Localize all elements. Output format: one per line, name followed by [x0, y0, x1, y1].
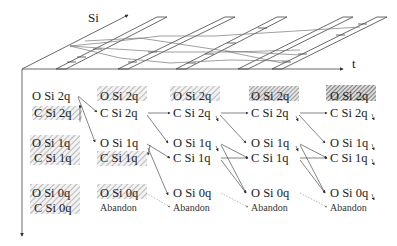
column-3: O Si 2q C Si 2q O Si 1q C Si 1q O Si 0q …	[249, 86, 299, 213]
state-o-0q: O Si 0q	[100, 186, 139, 200]
state-o-1q: O Si 1q	[100, 136, 139, 150]
state-o-1q: O Si 1q	[32, 136, 71, 150]
column-1: O Si 2q C Si 2q O Si 1q C Si 1q O Si 0q …	[97, 86, 147, 213]
state-o-0q: O Si 0q	[173, 186, 212, 200]
state-abandon: Abandon	[330, 202, 367, 213]
state-o-1q: O Si 1q	[251, 136, 290, 150]
state-o-0q: O Si 0q	[32, 186, 71, 200]
state-c-0q: C Si 0q	[34, 201, 72, 215]
state-abandon: Abandon	[173, 202, 210, 213]
t-axis-label: t	[352, 56, 356, 71]
state-transition-diagram: Si t O Si 2q C Si 2q O Si 1q C Si 1q O S…	[0, 0, 397, 246]
trajectories	[70, 27, 360, 63]
state-o-2q: O Si 2q	[100, 89, 139, 103]
state-c-2q: C Si 2q	[100, 106, 138, 120]
state-c-2q: C Si 2q	[173, 106, 211, 120]
state-o-0q: O Si 0q	[251, 186, 290, 200]
column-4: O Si 2q C Si 2q O Si 1q C Si 1q O Si 0q …	[326, 85, 376, 213]
state-c-2q: C Si 2q	[251, 106, 289, 120]
state-o-2q: O Si 2q	[251, 89, 290, 103]
state-abandon: Abandon	[100, 202, 137, 213]
state-c-1q: C Si 1q	[251, 151, 289, 165]
column-0: O Si 2q C Si 2q O Si 1q C Si 1q O Si 0q …	[30, 89, 82, 215]
state-c-2q: C Si 2q	[34, 106, 72, 120]
column-2: O Si 2q C Si 2q O Si 1q C Si 1q O Si 0q …	[170, 86, 220, 213]
state-abandon: Abandon	[251, 202, 288, 213]
state-c-1q: C Si 1q	[173, 151, 211, 165]
state-o-0q: O Si 0q	[330, 186, 369, 200]
state-o-2q: O Si 2q	[32, 89, 71, 103]
state-o-1q: O Si 1q	[330, 136, 369, 150]
si-axis-label: Si	[88, 10, 99, 25]
timeline-plane	[22, 15, 387, 69]
state-o-2q: O Si 2q	[173, 89, 212, 103]
state-o-2q: O Si 2q	[330, 89, 369, 103]
state-c-1q: C Si 1q	[100, 151, 138, 165]
state-c-1q: C Si 1q	[34, 151, 72, 165]
state-c-2q: C Si 2q	[330, 106, 368, 120]
time-slabs	[56, 17, 387, 69]
state-o-1q: O Si 1q	[173, 136, 212, 150]
state-c-1q: C Si 1q	[330, 151, 368, 165]
